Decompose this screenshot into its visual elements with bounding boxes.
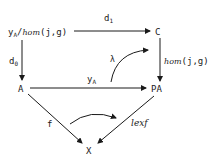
node-hom-args: (j,g) <box>40 27 67 37</box>
label-d1: d1 <box>104 13 113 26</box>
label-hom-right: hom(j,g) <box>164 56 209 67</box>
node-C: C <box>155 27 160 37</box>
label-lexf: lexf <box>131 118 148 128</box>
node-hom: hom <box>22 28 40 37</box>
arrow-curved-bottom <box>70 114 116 124</box>
node-X: X <box>86 146 91 156</box>
node-A: A <box>18 84 23 94</box>
label-d0: d0 <box>9 56 18 69</box>
label-lambda: λ <box>110 55 115 65</box>
arrow-lambda <box>111 50 148 82</box>
label-f: f <box>47 119 52 129</box>
arrow-f <box>28 94 82 143</box>
node-PA: PA <box>151 84 162 94</box>
node-yA-hom: yA/hom(j,g) <box>8 27 67 40</box>
label-yA: yA <box>87 74 96 87</box>
